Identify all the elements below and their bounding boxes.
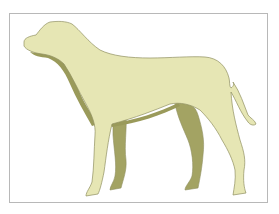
far-rear-leg: [175, 102, 204, 190]
far-front-leg: [110, 116, 126, 190]
dog-illustration: [0, 0, 279, 214]
dog-body: [24, 21, 256, 196]
